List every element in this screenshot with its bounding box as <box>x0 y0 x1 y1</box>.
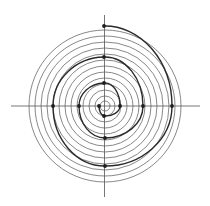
spiral-point-2 <box>118 104 122 108</box>
spiral-point-3 <box>102 81 106 85</box>
spiral-point-6 <box>141 104 145 108</box>
spiral-point-5 <box>103 136 107 140</box>
spiral-point-8 <box>51 104 55 108</box>
spiral-point-7 <box>102 55 106 59</box>
spiral-point-1 <box>102 114 106 118</box>
spiral-diagram <box>0 0 210 206</box>
spiral-point-11 <box>102 24 106 28</box>
spiral-point-0 <box>97 104 101 108</box>
spiral-point-10 <box>170 104 174 108</box>
spiral-point-9 <box>103 164 107 168</box>
spiral-point-4 <box>77 104 81 108</box>
